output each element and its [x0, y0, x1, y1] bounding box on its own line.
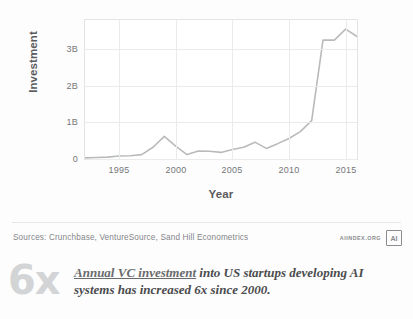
sources-row: Sources: Crunchbase, VentureSource, Sand…	[0, 222, 413, 254]
plot-area	[84, 19, 358, 160]
ai-index-logo-icon: AI	[386, 230, 402, 246]
ai-index-figure: Investment 01B2B3B 19952000200520102015 …	[0, 0, 413, 319]
x-tick-label: 2010	[279, 165, 300, 175]
horizontal-divider	[12, 222, 401, 223]
caption-text: Annual VC investment into US startups de…	[74, 264, 396, 298]
x-axis-tick-labels: 19952000200520102015	[84, 165, 358, 179]
gridline-vertical	[289, 20, 290, 159]
gridline-vertical	[346, 20, 347, 159]
gridline-horizontal	[85, 86, 357, 87]
line-chart-svg	[85, 20, 357, 159]
y-axis-title: Investment	[27, 7, 39, 117]
gridline-vertical	[119, 20, 120, 159]
caption-link[interactable]: Annual VC investment	[74, 265, 196, 280]
x-tick-label: 1995	[109, 165, 130, 175]
x-tick-label: 2015	[336, 165, 357, 175]
y-tick-label: 2B	[67, 82, 78, 91]
gridline-vertical	[176, 20, 177, 159]
y-axis-tick-labels: 01B2B3B	[52, 19, 78, 160]
ai-index-logo-glyph: AI	[387, 235, 401, 242]
x-axis-title: Year	[84, 188, 358, 200]
gridline-vertical	[232, 20, 233, 159]
y-tick-label: 3B	[67, 45, 78, 54]
x-tick-label: 2000	[166, 165, 187, 175]
caption-row: 6x Annual VC investment into US startups…	[0, 258, 413, 318]
gridline-horizontal	[85, 49, 357, 50]
y-tick-label: 1B	[67, 118, 78, 127]
sources-label: Sources: Crunchbase, VentureSource, Sand…	[13, 233, 248, 242]
chart-container: Investment 01B2B3B 19952000200520102015 …	[0, 0, 413, 218]
x-tick-label: 2005	[222, 165, 243, 175]
y-tick-label: 0	[73, 155, 78, 164]
gridline-horizontal	[85, 122, 357, 123]
brand-lockup[interactable]: AIINDEX.ORG AI	[340, 230, 402, 246]
brand-url-label: AIINDEX.ORG	[340, 235, 381, 241]
gridline-horizontal	[85, 159, 357, 160]
headline-stat: 6x	[8, 260, 60, 300]
